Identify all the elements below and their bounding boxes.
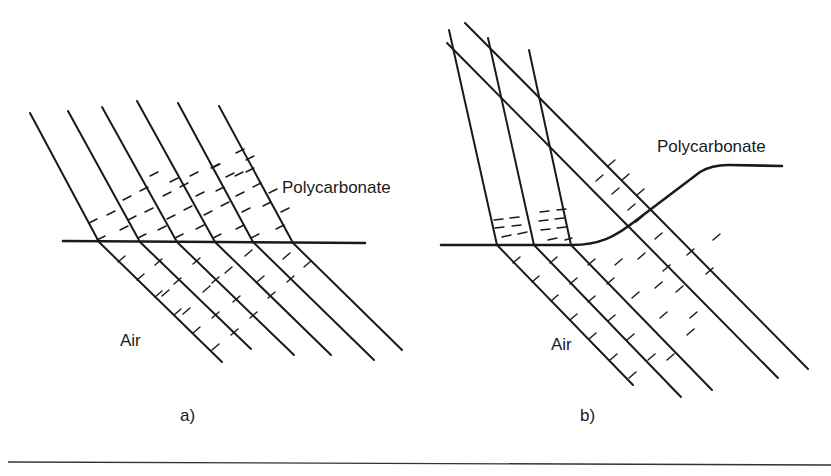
- panel-a-rays-air: [99, 242, 402, 362]
- panel-a-caption: a): [180, 406, 195, 425]
- bottom-rule: [8, 462, 831, 465]
- panel-b-rays-air: [497, 209, 808, 397]
- panel-a: Polycarbonate Air a): [30, 101, 402, 425]
- panel-a-wavefronts-air: [118, 250, 311, 350]
- panel-b-air-label-text: Air: [551, 335, 572, 354]
- panel-a-polycarbonate-label: Polycarbonate: [282, 178, 391, 197]
- panel-a-air-label: Air: [120, 331, 141, 350]
- figure-canvas: Polycarbonate Air a): [0, 0, 831, 476]
- panel-b-rays-polycarbonate-shallow: [447, 23, 650, 226]
- panel-b-polycarbonate-label: Polycarbonate: [657, 137, 766, 156]
- panel-b-interface: [441, 165, 782, 245]
- panel-b-wavefronts-polycarbonate: [494, 160, 644, 240]
- panel-b: Polycarbonate Air b): [441, 23, 808, 425]
- panel-b-caption: b): [580, 406, 595, 425]
- panel-a-rays-polycarbonate: [30, 101, 293, 243]
